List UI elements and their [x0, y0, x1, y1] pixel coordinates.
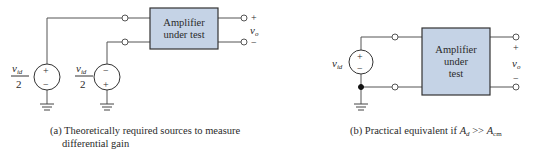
output-terminal-icon	[513, 34, 519, 40]
output-plus-sign-b: +	[513, 42, 519, 53]
output-terminal-icon	[241, 15, 247, 21]
caption-a-line2: differential gain	[62, 137, 129, 150]
source-b-top-sign: +	[357, 51, 363, 62]
ground-icon	[354, 104, 368, 110]
source1-bottom-sign: −	[43, 79, 49, 90]
output-terminal-icon	[513, 84, 519, 90]
input-terminal-icon	[122, 39, 128, 45]
amplifier-label-b: Amplifier under test	[422, 28, 490, 95]
source1-value-numerator: vid	[12, 63, 22, 78]
ground-icon	[40, 104, 54, 110]
amplifier-label-line2: under test	[163, 29, 204, 41]
output-plus-sign-a: +	[251, 12, 257, 23]
source2-value-denominator: 2	[80, 79, 86, 90]
ground-icon	[100, 104, 114, 110]
input-terminal-icon	[122, 15, 128, 21]
output-minus-sign-a: −	[251, 37, 257, 48]
junction-dot-icon	[359, 85, 364, 90]
source2-bottom-sign: +	[103, 79, 109, 90]
amplifier-label-line2: under	[444, 56, 468, 68]
source-b-label: vid	[332, 58, 342, 73]
input-terminal-icon	[392, 34, 398, 40]
caption-b: (b) Practical equivalent if Ad >> Acm	[350, 124, 502, 141]
output-minus-sign-b: −	[513, 73, 519, 84]
amplifier-label-line1: Amplifier	[163, 17, 204, 29]
input-terminal-icon	[392, 84, 398, 90]
caption-a-line1: (a) Theoretically required sources to me…	[50, 124, 240, 137]
source1-value-denominator: 2	[16, 79, 22, 90]
amplifier-label-line1: Amplifier	[435, 44, 476, 56]
output-voltage-label-b: vo	[512, 58, 520, 73]
output-terminal-icon	[241, 39, 247, 45]
amplifier-label-line3: test	[449, 68, 464, 80]
circuit-figure: Amplifier under test + − vid 2 − + vid 2…	[0, 0, 533, 153]
source2-value-numerator: vid	[76, 63, 86, 78]
source-b-bottom-sign: −	[357, 63, 363, 74]
source1-top-sign: +	[43, 65, 49, 76]
amplifier-label-a: Amplifier under test	[150, 8, 218, 49]
source2-top-sign: −	[103, 65, 109, 76]
